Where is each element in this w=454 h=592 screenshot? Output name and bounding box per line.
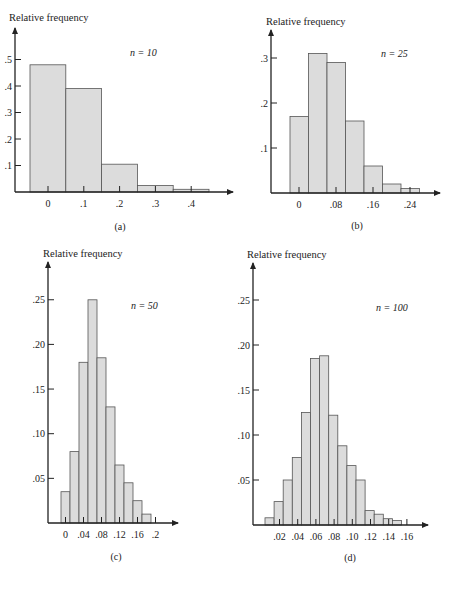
y-tick-label: .1 (5, 160, 13, 171)
x-tick-label: .04 (291, 531, 304, 542)
histogram-bar (346, 121, 365, 193)
sample-size-annotation-d: n = 100 (376, 302, 408, 313)
histogram-bar (383, 184, 402, 193)
panel-caption-a: (a) (114, 221, 125, 233)
y-tick-label: .15 (33, 384, 46, 395)
x-tick-label: .2 (116, 198, 124, 209)
histogram-bar (97, 358, 106, 523)
histogram-bar (66, 89, 102, 192)
histogram-bar (274, 502, 283, 525)
x-tick-label: .02 (273, 531, 286, 542)
x-tick-label: .14 (382, 531, 395, 542)
x-tick-label: .08 (330, 199, 343, 210)
histogram-bar (311, 359, 320, 526)
panel-caption-d: (d) (344, 552, 356, 564)
x-tick-label: 0 (63, 529, 68, 540)
x-tick-label: .12 (113, 529, 126, 540)
x-tick-label: .10 (346, 531, 359, 542)
y-tick-label: .10 (238, 430, 251, 441)
x-tick-label: .12 (364, 531, 377, 542)
histogram-bar (79, 362, 88, 523)
x-tick-label: .24 (404, 199, 417, 210)
x-tick-label: 0 (46, 198, 51, 209)
histogram-bar (347, 466, 356, 525)
y-axis-label-c: Relative frequency (43, 248, 123, 259)
y-axis-label-d: Relative frequency (247, 249, 327, 260)
histogram-bar (383, 519, 392, 525)
x-tick-label: .16 (131, 529, 144, 540)
x-tick-label: .08 (328, 531, 341, 542)
y-tick-label: .25 (238, 295, 251, 306)
panel-caption-b: (b) (351, 220, 363, 232)
histogram-panel-b: .1.2.30.08.16.24 Relative frequency n = … (261, 16, 441, 232)
histogram-bar (301, 413, 310, 526)
y-tick-label: .05 (238, 475, 251, 486)
histogram-bar (374, 514, 383, 525)
y-tick-label: .2 (5, 134, 13, 145)
histogram-bar (290, 117, 309, 194)
y-axis-label-a: Relative frequency (9, 12, 89, 23)
y-tick-label: .3 (5, 107, 13, 118)
histogram-panel-c: .05.10.15.20.250.04.08.12.16.2 Relative … (33, 248, 179, 563)
y-tick-label: .10 (33, 428, 46, 439)
histogram-bar (365, 511, 374, 525)
y-tick-label: .2 (261, 98, 269, 109)
x-tick-label: 0 (297, 199, 302, 210)
histogram-bar (124, 483, 133, 523)
histogram-bar (283, 480, 292, 525)
y-tick-label: .25 (33, 294, 46, 305)
y-tick-label: .05 (33, 473, 46, 484)
histogram-bar (115, 465, 124, 523)
x-tick-label: .4 (187, 198, 195, 209)
histogram-bar (142, 514, 151, 523)
x-tick-label: .16 (367, 199, 380, 210)
x-tick-label: .08 (95, 529, 108, 540)
y-tick-label: .3 (261, 53, 269, 64)
histogram-bar (292, 458, 301, 526)
histogram-bar (70, 452, 79, 523)
x-tick-label: .06 (310, 531, 323, 542)
y-tick-label: .1 (261, 143, 269, 154)
panel-caption-c: (c) (110, 551, 121, 563)
histogram-bar (309, 54, 328, 194)
histogram-bar (338, 446, 347, 525)
histogram-bar (320, 356, 329, 525)
y-tick-label: .5 (5, 54, 13, 65)
histogram-bar (329, 415, 338, 525)
histogram-bars-b: .1.2.30.08.16.24 (261, 30, 441, 210)
sample-size-annotation-a: n = 10 (130, 47, 157, 58)
y-tick-label: .20 (33, 339, 46, 350)
histogram-bar (392, 521, 401, 526)
sample-size-annotation-c: n = 50 (131, 300, 158, 311)
histogram-bars-a: .1.2.3.4.50.1.2.3.4 (5, 28, 234, 209)
x-tick-label: .2 (152, 529, 160, 540)
histogram-bar (327, 63, 346, 194)
y-tick-label: .20 (238, 340, 251, 351)
y-tick-label: .4 (5, 81, 13, 92)
x-tick-label: .3 (152, 198, 160, 209)
histogram-panel-d: .05.10.15.20.25.02.04.06.08.10.12.14.16 … (238, 249, 429, 564)
y-axis-label-b: Relative frequency (266, 16, 346, 27)
x-tick-label: .04 (77, 529, 90, 540)
histogram-panel-a: .1.2.3.4.50.1.2.3.4 Relative frequency n… (5, 12, 234, 233)
histogram-bar (356, 480, 365, 525)
histogram-figure: .1.2.3.4.50.1.2.3.4 Relative frequency n… (0, 0, 454, 592)
histogram-bar (88, 300, 97, 523)
sample-size-annotation-b: n = 25 (381, 48, 408, 59)
y-tick-label: .15 (238, 385, 251, 396)
histogram-bar (30, 65, 66, 192)
x-tick-label: .1 (80, 198, 88, 209)
histogram-bar (265, 518, 274, 525)
histogram-bar (106, 407, 115, 523)
x-tick-label: .16 (401, 531, 414, 542)
